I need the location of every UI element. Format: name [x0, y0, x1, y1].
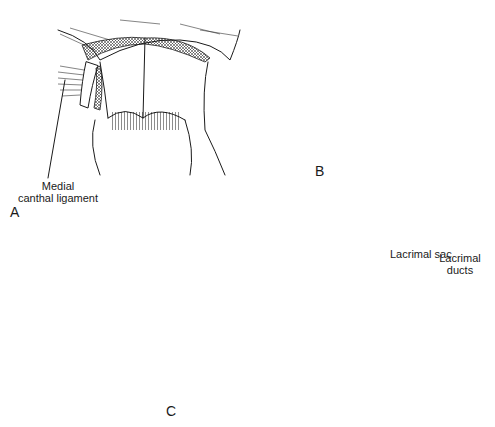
label-line-1: Medial	[8, 180, 108, 192]
illustration-canvas	[0, 0, 495, 427]
label-line-2: canthal ligament	[8, 192, 108, 204]
panel-letter-a: A	[10, 204, 19, 220]
panel-letter-b: B	[315, 163, 324, 179]
label-lacrimal-ducts: Lacrimal ducts	[430, 252, 490, 276]
label-line-1: Lacrimal	[430, 252, 490, 264]
panel-a-drawing	[48, 20, 240, 178]
label-line-2: ducts	[430, 264, 490, 276]
panel-letter-c: C	[166, 403, 176, 419]
label-medial-canthal-ligament: Medial canthal ligament	[8, 180, 108, 204]
